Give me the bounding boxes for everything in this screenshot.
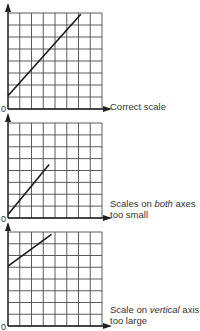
caption-text: axis (180, 304, 200, 315)
caption: Scale on vertical axis too large (110, 304, 199, 326)
y-axis-arrow-icon (5, 222, 11, 231)
caption-emphasis: vertical (150, 304, 180, 315)
caption-text: Scale on (110, 304, 150, 315)
data-line (8, 234, 51, 266)
origin-label: 0 (1, 322, 6, 331)
grid (8, 232, 102, 326)
graph-vertical-scale-too-large: Scale on vertical axis too large 0 (0, 0, 200, 331)
caption-text-line2: too large (110, 315, 147, 326)
chart-svg (0, 0, 200, 331)
